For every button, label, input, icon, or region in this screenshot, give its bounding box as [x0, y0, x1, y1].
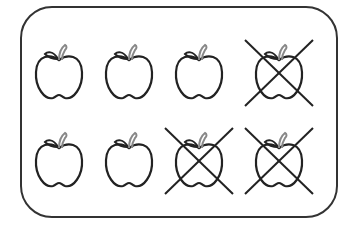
crossed-apple-icon — [253, 40, 305, 104]
crossed-apple-icon — [173, 128, 225, 192]
apple-icon — [33, 128, 85, 192]
apple-icon — [33, 40, 85, 104]
apple-icon — [173, 40, 225, 104]
crossed-apple-icon — [253, 128, 305, 192]
apple-icon — [103, 128, 155, 192]
apple-icon — [103, 40, 155, 104]
